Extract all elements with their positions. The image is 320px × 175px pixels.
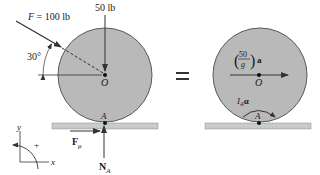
kinetic-diagram: ( 50 g ) a O IAα A <box>205 28 311 129</box>
force-f-label: F = 100 lb <box>27 11 70 22</box>
angle-arc-icon <box>43 44 52 75</box>
coordinate-axes: x y + <box>13 122 55 169</box>
contact-label-left: A <box>100 111 107 121</box>
center-label-left: O <box>101 77 108 88</box>
normal-force-label: NA <box>99 161 111 175</box>
mass-numerator: 50 <box>239 50 247 59</box>
svg-text:): ) <box>250 52 255 70</box>
contact-point-right <box>257 121 261 125</box>
friction-label: Fμ <box>72 136 82 150</box>
sign-label: + <box>34 140 39 150</box>
contact-point-left <box>103 121 107 125</box>
weight-label: 50 lb <box>95 2 115 13</box>
angle-label: 30° <box>27 51 41 62</box>
rigid-body-diagram: 30° F = 100 lb 50 lb O A Fμ NA x y + <box>0 0 320 175</box>
center-label-right: O <box>255 77 262 88</box>
force-f-arrow <box>16 21 61 47</box>
y-axis-label: y <box>16 122 21 132</box>
equals-sign <box>176 72 189 80</box>
acceleration-symbol: a <box>257 55 262 65</box>
x-axis-label: x <box>50 157 55 167</box>
contact-label-right: A <box>254 111 261 121</box>
mass-denominator: g <box>241 60 245 69</box>
